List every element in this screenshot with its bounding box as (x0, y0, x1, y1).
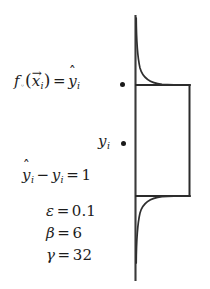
target-point-dot (121, 141, 126, 146)
equals-sign: = (64, 166, 82, 184)
prediction-point-dot (120, 82, 125, 87)
parameter-beta: β=6 (46, 226, 82, 241)
y-subscript: i (107, 140, 110, 151)
target-label: yi (98, 134, 110, 150)
y-symbol: y (98, 132, 107, 150)
epsilon-symbol: ε (46, 202, 54, 220)
equals-sign: = (50, 72, 68, 90)
beta-symbol: β (46, 224, 55, 242)
vector-x: x→ (32, 74, 41, 89)
parameter-epsilon: ε=0.1 (46, 204, 96, 219)
upper-decay-curve (136, 18, 190, 85)
beta-value: 6 (72, 224, 82, 242)
gamma-value: 32 (73, 246, 92, 264)
parameter-gamma: γ=32 (46, 248, 92, 263)
residual-yhat: yˆ (22, 168, 31, 183)
equals-sign: = (55, 246, 73, 264)
gamma-symbol: γ (46, 246, 55, 264)
equals-sign: = (54, 202, 72, 220)
yhat-subscript: i (77, 80, 80, 91)
lower-rise-curve (136, 196, 190, 263)
residual-value: 1 (81, 166, 91, 184)
yhat-symbol: yˆ (68, 74, 77, 89)
residual-y: y (52, 166, 61, 184)
residual-equation: yˆi−yi=1 (22, 168, 91, 184)
epsilon-value: 0.1 (72, 202, 96, 220)
equals-sign: = (55, 224, 73, 242)
minus-sign: − (34, 166, 52, 184)
figure-root: f◦(x→i)=yˆi yi yˆi−yi=1 ε=0.1 β=6 γ=32 (0, 0, 210, 289)
prediction-label: f◦(x→i)=yˆi (14, 72, 80, 90)
function-symbol: f (14, 72, 20, 90)
open-paren: ( (25, 70, 32, 90)
